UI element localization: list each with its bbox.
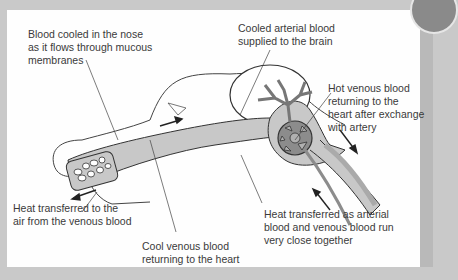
label-hot-venous: Hot venous blood returning to the heart … <box>328 82 424 134</box>
label-nose-cooling: Blood cooled in the nose as it flows thr… <box>28 28 152 67</box>
label-heat-exchange: Heat transferred as arterial blood and v… <box>264 208 394 247</box>
label-brain-supply: Cooled arterial blood supplied to the br… <box>238 22 335 48</box>
label-cool-venous: Cool venous blood returning to the heart <box>142 240 239 266</box>
eye-icon <box>168 103 186 115</box>
neck-vessel-outer <box>310 140 380 215</box>
label-heat-to-air: Heat transferred to the air from the ven… <box>13 202 131 228</box>
